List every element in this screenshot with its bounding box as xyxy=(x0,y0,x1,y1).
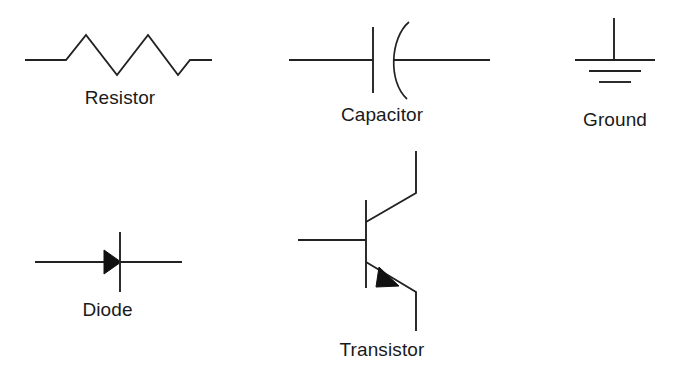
resistor-symbol xyxy=(25,35,212,75)
transistor-label: Transistor xyxy=(262,340,502,359)
symbols-vector-canvas xyxy=(0,0,676,383)
capacitor-label: Capacitor xyxy=(262,105,502,124)
ground-symbol xyxy=(575,18,655,82)
circuit-symbols-diagram: Resistor Capacitor Ground Diode Transist… xyxy=(0,0,676,383)
capacitor-symbol xyxy=(289,22,490,99)
transistor-collector-lead xyxy=(366,151,416,222)
transistor-symbol xyxy=(298,151,416,331)
diode-triangle-icon xyxy=(104,250,121,274)
diode-label: Diode xyxy=(0,300,215,319)
transistor-emitter-lead xyxy=(366,262,416,331)
ground-label: Ground xyxy=(505,110,676,129)
transistor-emitter-arrow-icon xyxy=(376,267,399,287)
resistor-zigzag-icon xyxy=(25,35,212,75)
diode-symbol xyxy=(35,232,182,292)
resistor-label: Resistor xyxy=(0,88,240,107)
